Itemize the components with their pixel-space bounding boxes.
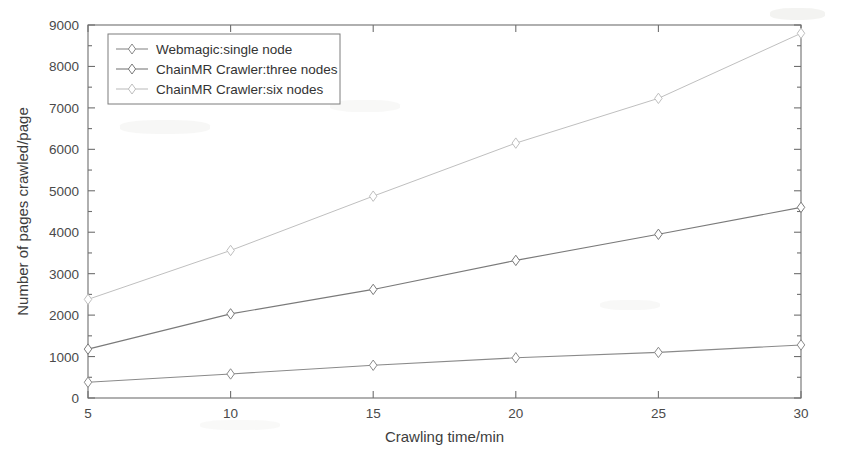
y-tick-label: 1000 (49, 350, 79, 365)
data-point-marker (227, 309, 234, 319)
data-point-marker (512, 138, 519, 148)
y-tick-label: 5000 (49, 184, 79, 199)
chart-canvas: 0100020003000400050006000700080009000510… (0, 0, 846, 453)
y-axis-title: Number of pages crawled/page (14, 107, 31, 315)
data-point-marker (655, 93, 662, 103)
data-point-marker (655, 229, 662, 239)
data-point-marker (797, 28, 804, 38)
series-1 (84, 202, 804, 354)
y-tick-label: 9000 (49, 18, 79, 33)
y-tick-label: 2000 (49, 308, 79, 323)
y-tick-label: 8000 (49, 59, 79, 74)
series-line (88, 207, 801, 349)
x-tick-label: 5 (84, 406, 92, 421)
data-point-marker (512, 353, 519, 363)
data-point-marker (797, 340, 804, 350)
y-tick-label: 6000 (49, 142, 79, 157)
data-point-marker (84, 377, 91, 387)
data-point-marker (369, 191, 376, 201)
x-axis-title: Crawling time/min (385, 428, 504, 445)
data-point-marker (512, 255, 519, 265)
x-tick-label: 20 (508, 406, 523, 421)
data-point-marker (369, 360, 376, 370)
legend-label: Webmagic:single node (156, 42, 292, 57)
chart-legend: Webmagic:single nodeChainMR Crawler:thre… (108, 34, 340, 104)
x-tick-label: 15 (366, 406, 381, 421)
legend-label: ChainMR Crawler:six nodes (156, 82, 324, 97)
x-tick-label: 10 (223, 406, 238, 421)
data-point-marker (227, 245, 234, 255)
series-line (88, 345, 801, 382)
data-point-marker (655, 347, 662, 357)
data-point-marker (84, 294, 91, 304)
x-tick-label: 25 (651, 406, 666, 421)
data-point-marker (84, 344, 91, 354)
y-tick-label: 3000 (49, 267, 79, 282)
data-point-marker (227, 369, 234, 379)
line-chart: 0100020003000400050006000700080009000510… (0, 0, 846, 453)
y-tick-label: 7000 (49, 101, 79, 116)
x-tick-label: 30 (793, 406, 808, 421)
series-0 (84, 340, 804, 388)
y-tick-label: 0 (71, 391, 79, 406)
legend-label: ChainMR Crawler:three nodes (156, 62, 338, 77)
data-point-marker (369, 284, 376, 294)
y-tick-label: 4000 (49, 225, 79, 240)
